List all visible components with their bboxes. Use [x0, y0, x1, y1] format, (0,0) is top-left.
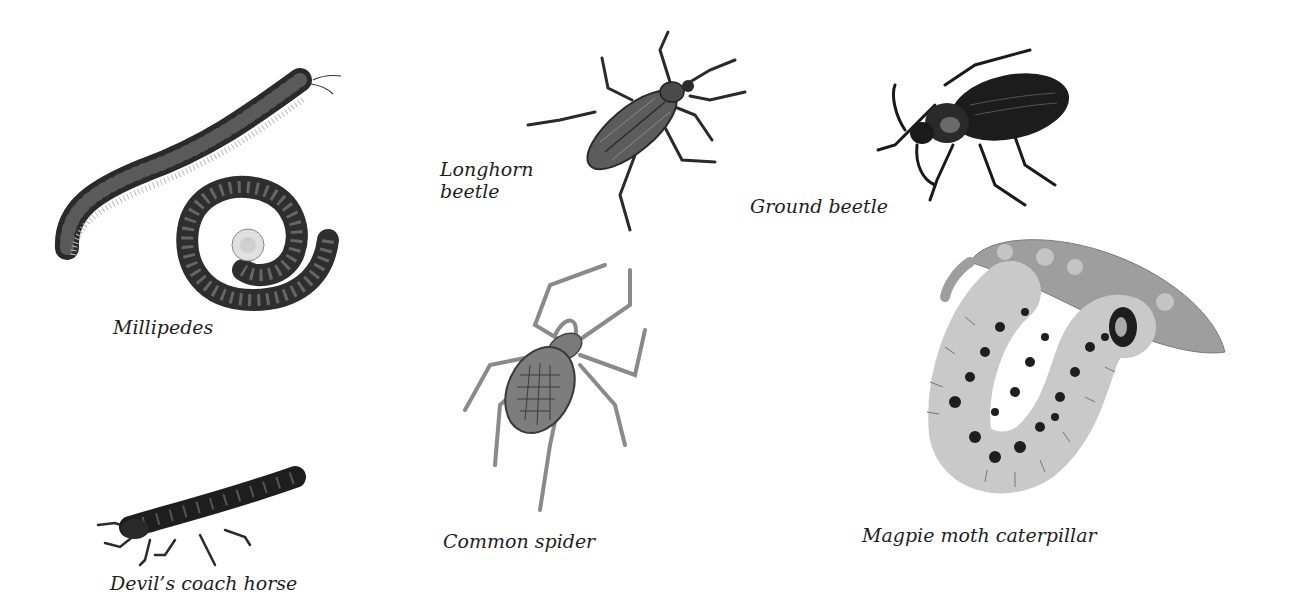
devils-coach-horse-label: Devil’s coach horse — [110, 572, 297, 594]
magpie-moth-caterpillar-label: Magpie moth caterpillar — [862, 524, 1097, 546]
spider-illustration-icon — [455, 265, 655, 515]
longhorn-beetle-label: Longhorn beetle — [440, 158, 550, 202]
devils-coach-horse-illustration-icon — [90, 465, 305, 575]
millipedes-label: Millipedes — [113, 316, 213, 338]
common-spider-label: Common spider — [443, 530, 595, 552]
caterpillar-illustration-icon — [925, 232, 1225, 492]
illustration-plate: Millipedes Longhorn beetle — [0, 0, 1289, 605]
longhorn-beetle-label-line2: beetle — [440, 180, 500, 202]
longhorn-beetle-illustration-icon — [520, 30, 760, 240]
ground-beetle-illustration-icon — [875, 45, 1095, 215]
longhorn-beetle-label-line1: Longhorn — [440, 158, 533, 180]
ground-beetle-label: Ground beetle — [750, 195, 888, 217]
millipede-illustration-icon — [55, 60, 355, 300]
